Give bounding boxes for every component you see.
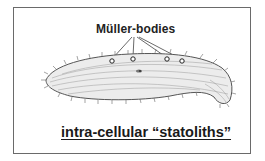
muller-body — [131, 57, 135, 61]
muller-body — [165, 57, 169, 61]
muller-bodies-label: Müller-bodies — [96, 22, 175, 36]
muller-body — [180, 59, 184, 63]
muller-body — [110, 59, 114, 63]
cell-body — [41, 49, 236, 108]
figure-caption: intra-cellular “statoliths” — [61, 124, 231, 140]
